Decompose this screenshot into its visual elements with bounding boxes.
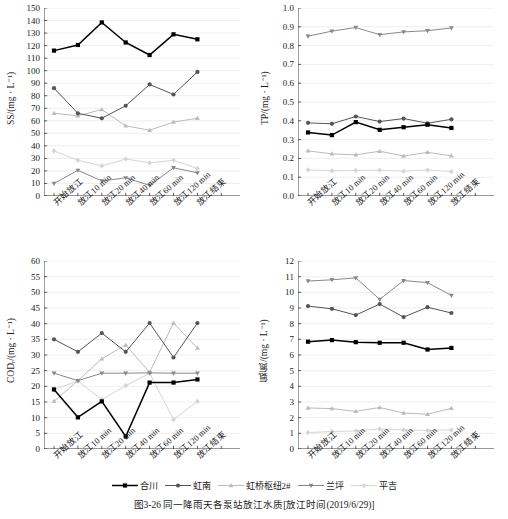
data-point	[330, 122, 334, 126]
legend-label: 虹南	[193, 479, 211, 492]
data-point	[402, 341, 406, 345]
legend-marker-icon	[218, 480, 244, 491]
data-point	[99, 107, 104, 111]
series-虹南	[306, 302, 454, 319]
y-tick-label: 10	[285, 288, 298, 297]
y-tick-label: 25	[31, 366, 44, 375]
data-point	[306, 148, 311, 152]
y-tick-label: 20	[31, 382, 44, 391]
y-tick-label: 0.5	[283, 98, 298, 107]
data-point	[449, 126, 453, 130]
legend-label: 平吉	[379, 479, 397, 492]
data-point	[171, 92, 175, 96]
y-tick-label: 5	[290, 366, 299, 375]
data-point	[76, 43, 80, 47]
data-point	[354, 120, 358, 124]
plot-area-tp: 0.00.10.20.30.40.50.60.70.80.91.0	[298, 8, 494, 196]
data-point	[52, 148, 57, 153]
y-tick-label: 6	[290, 351, 299, 360]
data-point	[148, 53, 152, 57]
data-point	[330, 338, 334, 342]
data-point	[124, 40, 128, 44]
y-tick-label: 20	[31, 166, 44, 175]
legend-item-平吉[interactable]: 平吉	[351, 479, 397, 492]
series-兰坪	[306, 276, 454, 302]
legend-item-虹南[interactable]: 虹南	[165, 479, 211, 492]
figure-legend: 合川虹南虹桥枢纽2#兰坪平吉	[0, 478, 508, 492]
y-tick-label: 40	[31, 319, 44, 328]
data-point	[425, 347, 429, 351]
chart-panel-ss: SS/(mg · L⁻¹) 01020304050607080901001101…	[0, 0, 254, 255]
data-point	[195, 166, 200, 171]
series-平吉	[52, 371, 200, 423]
series-line	[54, 323, 197, 401]
data-point	[124, 104, 128, 108]
y-tick-label: 130	[27, 29, 45, 38]
data-point	[52, 49, 56, 53]
data-point	[329, 168, 334, 173]
data-point	[425, 123, 429, 127]
data-point	[354, 313, 358, 317]
y-tick-label: 110	[27, 54, 44, 63]
y-tick-label: 0	[36, 445, 45, 454]
y-tick-label: 0.9	[283, 22, 298, 31]
data-point	[449, 117, 453, 121]
y-tick-label: 0.7	[283, 60, 298, 69]
y-tick-label: 8	[290, 319, 299, 328]
figure-container: SS/(mg · L⁻¹) 01020304050607080901001101…	[0, 0, 508, 519]
y-tick-label: 9	[290, 304, 299, 313]
chart-panel-tp: TP/(mg · L⁻¹) 0.00.10.20.30.40.50.60.70.…	[254, 0, 508, 255]
series-虹南	[52, 70, 200, 121]
y-axis-label-nh3n: 氨氮/(mg · L⁻¹)	[256, 253, 272, 449]
data-point	[449, 406, 454, 410]
data-point	[378, 341, 382, 345]
data-point	[306, 304, 310, 308]
legend-item-合川[interactable]: 合川	[112, 479, 158, 492]
data-point	[52, 111, 57, 115]
y-tick-label: 60	[31, 257, 44, 266]
y-tick-label: 140	[27, 16, 45, 25]
data-point	[402, 125, 406, 129]
y-axis-label-ss: SS/(mg · L⁻¹)	[2, 0, 18, 196]
y-tick-label: 55	[31, 272, 44, 281]
legend-item-虹桥枢纽2#[interactable]: 虹桥枢纽2#	[218, 479, 291, 492]
data-point	[330, 133, 334, 137]
y-tick-label: 15	[31, 398, 44, 407]
data-point	[195, 377, 199, 381]
series-虹桥枢纽2#	[306, 148, 454, 157]
plot-area-cod: 051015202530354045505560	[44, 261, 240, 449]
data-point	[195, 321, 199, 325]
data-point	[306, 430, 311, 435]
data-point	[425, 150, 430, 154]
y-tick-label: 2	[290, 413, 299, 422]
data-point	[100, 331, 104, 335]
legend-label: 合川	[140, 479, 158, 492]
y-tick-label: 11	[285, 272, 298, 281]
data-point	[171, 380, 175, 384]
data-point	[306, 340, 310, 344]
data-point	[195, 70, 199, 74]
series-虹桥枢纽2#	[52, 107, 200, 132]
data-point	[377, 33, 382, 37]
y-tick-label: 35	[31, 335, 44, 344]
y-tick-label: 1	[290, 429, 299, 438]
y-tick-label: 80	[31, 91, 44, 100]
data-point	[378, 302, 382, 306]
data-point	[123, 383, 128, 388]
caption-block: 合川虹南虹桥枢纽2#兰坪平吉 图3-26 同一降雨天各泵站放江水质[放江时间(2…	[0, 478, 508, 511]
data-point	[52, 387, 56, 391]
data-point	[378, 119, 382, 123]
series-line	[308, 278, 451, 299]
y-tick-label: 3	[290, 398, 299, 407]
y-axis-label-cod: COD₝ᵣ/(mg · L⁻¹)	[2, 253, 18, 449]
data-point	[354, 340, 358, 344]
y-tick-label: 0.0	[283, 192, 298, 201]
chart-svg-ss	[44, 8, 240, 196]
data-point	[353, 168, 358, 173]
axis-lines	[44, 8, 240, 196]
data-point	[195, 116, 200, 120]
y-tick-label: 0	[290, 445, 299, 454]
legend-item-兰坪[interactable]: 兰坪	[298, 479, 344, 492]
data-point	[449, 346, 453, 350]
data-point	[449, 294, 454, 298]
